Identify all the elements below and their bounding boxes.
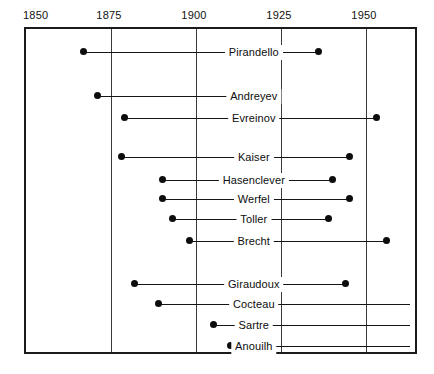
death-dot: [346, 195, 353, 202]
playwright-name-label: Anouilh: [231, 339, 276, 354]
playwright-name-label: Brecht: [234, 234, 274, 249]
birth-dot: [159, 176, 166, 183]
birth-dot: [155, 300, 162, 307]
timeline-row[interactable]: Kaiser: [26, 151, 415, 165]
playwright-name-label: Sartre: [235, 318, 274, 333]
lifespan-line: [84, 52, 319, 53]
playwright-name-label: Cocteau: [229, 297, 279, 312]
timeline-row[interactable]: Giraudoux: [26, 278, 415, 292]
timeline-row[interactable]: Toller: [26, 213, 415, 227]
birth-dot: [80, 48, 87, 55]
death-dot: [342, 280, 349, 287]
lifespan-line: [189, 241, 386, 242]
birth-dot: [121, 114, 128, 121]
x-axis-tick-1925: 1925: [266, 9, 291, 21]
birth-dot: [159, 195, 166, 202]
timeline-row[interactable]: Pirandello: [26, 46, 415, 60]
timeline-row[interactable]: Cocteau: [26, 298, 415, 312]
death-dot: [315, 48, 322, 55]
birth-dot: [210, 321, 217, 328]
birth-dot: [94, 92, 101, 99]
timeline-row[interactable]: Andreyev: [26, 90, 415, 104]
playwright-name-label: Evreinov: [228, 111, 280, 126]
timeline-row[interactable]: Evreinov: [26, 112, 415, 126]
birth-dot: [131, 280, 138, 287]
death-dot: [329, 176, 336, 183]
playwright-name-label: Werfel: [234, 192, 274, 207]
lifespan-line: [159, 304, 411, 305]
x-axis-tick-1850: 1850: [23, 9, 48, 21]
x-axis-tick-1950: 1950: [351, 9, 376, 21]
playwright-name-label: Hasenclever: [219, 173, 289, 188]
death-dot: [346, 153, 353, 160]
death-dot: [383, 237, 390, 244]
birth-dot: [169, 215, 176, 222]
playwright-name-label: Giraudoux: [224, 277, 284, 292]
timeline-row[interactable]: Anouilh: [26, 340, 415, 354]
timeline-row[interactable]: Hasenclever: [26, 174, 415, 188]
birth-dot: [186, 237, 193, 244]
x-axis-tick-1900: 1900: [181, 9, 206, 21]
playwright-name-label: Kaiser: [234, 150, 274, 165]
timeline-row[interactable]: Brecht: [26, 235, 415, 249]
lifespan-timeline-chart: 18501875190019251950 PirandelloAndreyevE…: [0, 0, 434, 374]
playwright-name-label: Andreyev: [226, 89, 281, 104]
playwright-name-label: Pirandello: [225, 45, 283, 60]
timeline-row[interactable]: Sartre: [26, 319, 415, 333]
death-dot: [325, 215, 332, 222]
playwright-name-label: Toller: [236, 212, 271, 227]
death-dot: [373, 114, 380, 121]
timeline-row[interactable]: Werfel: [26, 193, 415, 207]
plot-area: PirandelloAndreyevEvreinovKaiserHasencle…: [24, 27, 417, 354]
x-axis-tick-1875: 1875: [96, 9, 121, 21]
birth-dot: [118, 153, 125, 160]
